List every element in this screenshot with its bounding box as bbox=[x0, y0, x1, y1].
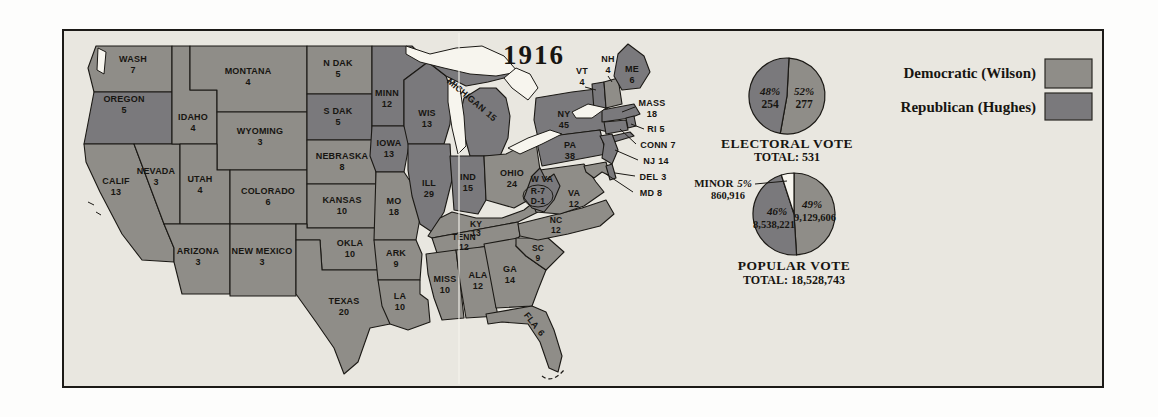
state-votes: 24 bbox=[507, 179, 517, 189]
state-label: NY45 bbox=[558, 109, 571, 130]
popular-dem-pct: 49% bbox=[801, 198, 822, 210]
md-leader-line bbox=[606, 174, 633, 192]
state-name: UTAH bbox=[187, 174, 212, 184]
state-votes: 8 bbox=[657, 188, 662, 198]
state-label: VT4 bbox=[576, 66, 588, 87]
state-name: OKLA bbox=[337, 238, 364, 248]
state-name: N DAK bbox=[323, 58, 353, 68]
florida-keys bbox=[542, 370, 564, 379]
map-panel: 1916 WASH7 OREGON5 CALIF13 NEVADA3 IDAHO… bbox=[62, 29, 1104, 388]
state-votes: 3 bbox=[661, 172, 666, 182]
state-label: NH4 bbox=[601, 54, 614, 75]
state-votes: 13 bbox=[111, 187, 121, 197]
state-votes: 7 bbox=[671, 140, 676, 150]
state-votes: 6 bbox=[629, 75, 634, 85]
state-name: MONTANA bbox=[225, 66, 272, 76]
state-votes: 4 bbox=[579, 77, 584, 87]
popular-vote-total: TOTAL: 18,528,743 bbox=[743, 273, 845, 287]
state-name: MINN bbox=[375, 88, 399, 98]
state-label: PA38 bbox=[564, 140, 577, 161]
state-votes: 6 bbox=[265, 197, 270, 207]
state-name: ME bbox=[625, 64, 639, 74]
state-votes: 4 bbox=[190, 123, 195, 133]
legend-democratic-label: Democratic (Wilson) bbox=[903, 65, 1036, 82]
state-name: NJ bbox=[643, 156, 655, 166]
state-label: MO18 bbox=[387, 196, 402, 217]
party-legend: Democratic (Wilson) Republican (Hughes) bbox=[901, 59, 1092, 120]
state-label: CONN7 bbox=[640, 140, 676, 150]
electoral-rep-votes: 254 bbox=[761, 98, 779, 110]
state-votes: 9 bbox=[536, 253, 541, 263]
state-name: CONN bbox=[640, 140, 667, 150]
w-va-rep-votes: R-7 bbox=[531, 186, 545, 196]
state-votes: 7 bbox=[130, 65, 135, 75]
state-votes: 38 bbox=[565, 151, 575, 161]
state-name: NH bbox=[601, 54, 614, 64]
state-name: GA bbox=[503, 264, 517, 274]
state-votes: 5 bbox=[660, 124, 665, 134]
state-label: DEL3 bbox=[640, 172, 667, 182]
state-name: NC bbox=[550, 215, 563, 225]
state-votes: 12 bbox=[459, 242, 469, 252]
map-year-title: 1916 bbox=[503, 40, 565, 70]
scanned-election-map-page: 1916 WASH7 OREGON5 CALIF13 NEVADA3 IDAHO… bbox=[0, 0, 1158, 417]
state-votes: 12 bbox=[473, 281, 483, 291]
state-name: LA bbox=[394, 291, 407, 301]
state-votes: 20 bbox=[339, 307, 349, 317]
state-name: NEW MEXICO bbox=[231, 246, 292, 256]
state-name: COLORADO bbox=[241, 186, 295, 196]
popular-dem-votes: 9,129,606 bbox=[794, 212, 836, 223]
state-votes: 14 bbox=[505, 275, 515, 285]
minor-label: MINOR5% bbox=[694, 177, 752, 189]
state-votes: 13 bbox=[422, 119, 432, 129]
state-name: ARK bbox=[386, 248, 406, 258]
state-votes: 5 bbox=[335, 117, 340, 127]
state-conn bbox=[604, 120, 628, 134]
state-votes: 5 bbox=[121, 105, 126, 115]
state-votes: 45 bbox=[559, 120, 569, 130]
state-name: MO bbox=[387, 196, 402, 206]
state-votes: 8 bbox=[339, 162, 344, 172]
state-votes: 3 bbox=[257, 137, 262, 147]
state-votes: 10 bbox=[337, 206, 347, 216]
state-label: NJ14 bbox=[643, 156, 668, 166]
state-label: NC12 bbox=[550, 215, 563, 235]
state-votes: 9 bbox=[393, 259, 398, 269]
state-name: OHIO bbox=[500, 168, 524, 178]
state-votes: 5 bbox=[335, 69, 340, 79]
electoral-rep-pct: 48% bbox=[759, 85, 780, 97]
popular-vote-title: POPULAR VOTE bbox=[738, 258, 850, 273]
state-name: S DAK bbox=[323, 106, 352, 116]
state-name: CALIF bbox=[102, 176, 130, 186]
electoral-vote-title: ELECTORAL VOTE bbox=[721, 136, 853, 151]
state-votes: 18 bbox=[647, 109, 657, 119]
w-va-dem-votes: D-1 bbox=[531, 196, 545, 206]
state-votes: 12 bbox=[382, 99, 392, 109]
state-votes: 10 bbox=[395, 302, 405, 312]
state-label: GA14 bbox=[503, 264, 517, 285]
state-votes: 3 bbox=[153, 177, 158, 187]
state-name: WIS bbox=[418, 108, 436, 118]
state-name: KANSAS bbox=[322, 195, 361, 205]
state-votes: 10 bbox=[440, 285, 450, 295]
state-name: SC bbox=[532, 243, 544, 253]
state-name: IND bbox=[460, 172, 476, 182]
electoral-vote-total: TOTAL: 531 bbox=[754, 150, 820, 164]
state-votes: 13 bbox=[384, 149, 394, 159]
state-name: TEXAS bbox=[328, 296, 359, 306]
state-name: PA bbox=[564, 140, 577, 150]
state-votes: 4 bbox=[245, 77, 250, 87]
minor-name: MINOR bbox=[694, 177, 734, 189]
popular-rep-votes: 8,538,221 bbox=[753, 219, 795, 230]
state-name: NEBRASKA bbox=[316, 151, 369, 161]
state-votes: 12 bbox=[569, 199, 579, 209]
state-label-w-va: W VA bbox=[531, 174, 553, 184]
state-name: RI bbox=[647, 124, 656, 134]
legend-republican-swatch bbox=[1045, 93, 1092, 120]
channel-islands bbox=[88, 202, 94, 205]
popular-vote-pie: 49% 9,129,606 46% 8,538,221 POPULAR VOTE… bbox=[694, 173, 850, 287]
state-name: MD bbox=[640, 188, 655, 198]
us-election-map: 1916 WASH7 OREGON5 CALIF13 NEVADA3 IDAHO… bbox=[84, 40, 676, 379]
state-label: RI5 bbox=[647, 124, 665, 134]
state-votes: 29 bbox=[424, 189, 434, 199]
